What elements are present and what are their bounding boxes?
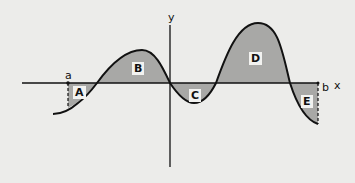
region-d-label: D [249,52,262,65]
x-axis-label: x [334,80,341,91]
bound-b-label: b [322,82,329,93]
y-axis-label: y [168,12,175,23]
diagram-canvas [0,0,355,183]
region-e-label: E [301,95,313,108]
region-b-label: B [132,62,144,75]
area-under-curve-diagram: y x a b A B C D E [0,0,355,183]
region-c-label: C [189,89,201,102]
region-a-label: A [73,86,86,99]
bound-b-point [317,82,320,85]
bound-a-label: a [65,70,72,81]
